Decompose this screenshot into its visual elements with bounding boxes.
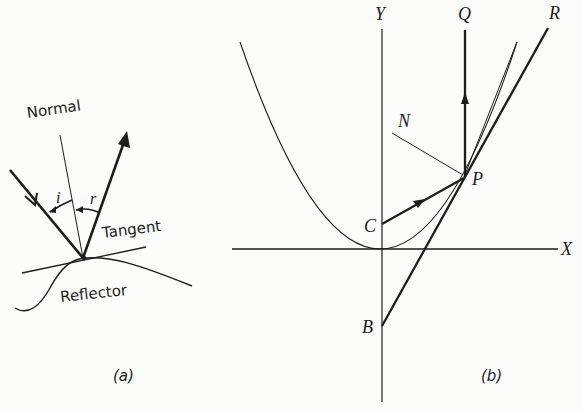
incident-ray	[10, 170, 83, 258]
normal-line	[60, 135, 83, 258]
reflection-angle-arrow-icon	[76, 206, 83, 213]
panel-b-caption: (b)	[481, 369, 502, 384]
incidence-angle-arrow-icon	[49, 206, 56, 213]
incidence-angle-label: i	[56, 190, 60, 206]
r-label: R	[549, 4, 560, 22]
figure-canvas: Normal i r Tangent Reflector (a) Y Q R N…	[0, 0, 583, 411]
b-label: B	[362, 318, 373, 336]
tangent-at-p-line	[464, 42, 517, 177]
panel-b	[232, 28, 558, 402]
parabola-curve	[240, 42, 517, 249]
incidence-point	[82, 256, 86, 260]
x-axis-label: X	[561, 240, 572, 258]
normal-n-line	[392, 133, 463, 175]
y-axis-label: Y	[375, 5, 385, 23]
ray-p-q-arrow-icon	[461, 92, 469, 104]
p-label: P	[472, 170, 483, 188]
reflected-arrowhead-icon	[118, 131, 130, 148]
diagram-svg	[0, 0, 583, 411]
n-label: N	[398, 112, 410, 130]
reflection-angle-label: r	[90, 191, 96, 207]
c-label: C	[364, 217, 376, 235]
q-label: Q	[458, 5, 471, 23]
panel-a-caption: (a)	[113, 369, 134, 384]
